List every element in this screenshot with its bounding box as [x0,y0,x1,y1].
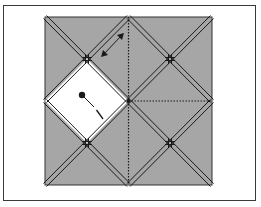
center-point [127,99,131,103]
fold-diagram [0,0,261,207]
